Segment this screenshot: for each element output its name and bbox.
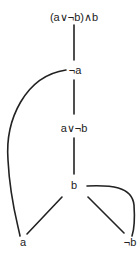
edge-b-to-not-b (88, 197, 124, 233)
node-b: b (71, 180, 77, 191)
edge-b-to-a (27, 197, 62, 234)
node-a: a (20, 237, 26, 248)
node-not-a: ¬a (69, 65, 82, 76)
edge-not-a-to-a-curve (8, 70, 66, 236)
node-a-or-not-b: a∨¬b (60, 123, 89, 134)
node-not-b: ¬b (124, 237, 137, 248)
node-root: (a∨¬b)∧b (50, 12, 98, 23)
edge-b-to-not-b-curve (87, 186, 134, 236)
